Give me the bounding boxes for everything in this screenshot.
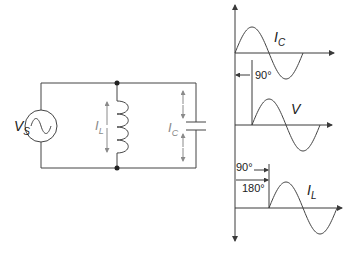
v-waveform-label: V — [291, 101, 302, 117]
phase-90-label-bottom: 90° — [236, 161, 253, 173]
waveform-axes — [235, 5, 342, 241]
node-dot-top — [115, 81, 120, 86]
circuit — [25, 83, 206, 168]
source-label: VS — [14, 118, 30, 137]
il-waveform-label: IL — [307, 182, 316, 201]
inductor-current-label: IL — [95, 118, 104, 136]
phase-180-label: 180° — [242, 182, 265, 194]
sine-glyph-icon — [31, 119, 51, 134]
lc-circuit-diagram: VS IL IC 90° 90° 180° IC V IL — [0, 0, 356, 253]
capacitor-current-label: IC — [168, 120, 179, 138]
ic-waveform-label: IC — [274, 29, 286, 48]
node-dot-bottom — [115, 166, 120, 171]
inductor-coil-icon — [117, 101, 128, 153]
waveforms — [235, 27, 337, 234]
phase-90-label-top: 90° — [255, 69, 272, 81]
